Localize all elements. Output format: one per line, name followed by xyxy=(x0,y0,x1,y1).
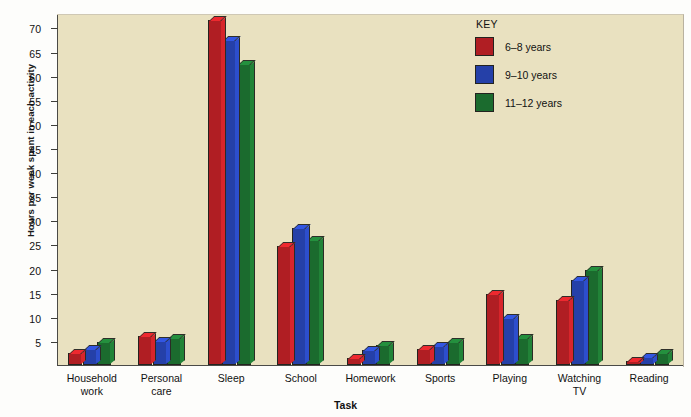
y-axis-tick: 40 xyxy=(51,173,58,174)
bar-side-face xyxy=(166,338,171,364)
bar-side-face xyxy=(598,267,603,364)
bar-side-face xyxy=(389,342,394,364)
bar-side-face xyxy=(584,277,589,364)
y-axis-tick: 50 xyxy=(51,125,58,126)
y-axis-tick: 35 xyxy=(51,197,58,198)
y-axis-tick-label: 55 xyxy=(29,96,41,108)
bar[interactable] xyxy=(347,358,361,365)
bar-side-face xyxy=(528,335,533,364)
bar-side-face xyxy=(569,297,574,364)
legend-item: 11–12 years xyxy=(475,93,562,112)
bar[interactable] xyxy=(277,246,291,365)
bar[interactable] xyxy=(68,353,82,365)
legend-title: KEY xyxy=(476,18,562,30)
bar-group xyxy=(138,14,181,365)
bar-side-face xyxy=(221,17,226,364)
legend-label: 9–10 years xyxy=(505,69,557,81)
y-axis-tick-label: 50 xyxy=(29,120,41,132)
bar-side-face xyxy=(319,237,324,364)
bar-group xyxy=(347,14,390,365)
y-axis-tick-label: 35 xyxy=(29,192,41,204)
bar-side-face xyxy=(180,335,185,364)
bar-side-face xyxy=(250,61,255,364)
bar-side-face xyxy=(235,37,240,364)
y-axis-tick-label: 30 xyxy=(29,216,41,228)
y-axis-tick: 5 xyxy=(51,342,58,343)
legend-label: 11–12 years xyxy=(505,97,562,109)
y-axis-tick-label: 65 xyxy=(29,48,41,60)
bar-group xyxy=(68,14,111,365)
bar[interactable] xyxy=(417,349,431,365)
plot-area: 510152025303540455055606570 xyxy=(57,14,684,366)
y-axis-tick: 25 xyxy=(51,245,58,246)
bar-group xyxy=(626,14,669,365)
bar-side-face xyxy=(514,315,519,364)
y-axis-tick-label: 5 xyxy=(35,337,41,349)
bar-side-face xyxy=(151,333,156,364)
y-axis-tick-label: 15 xyxy=(29,289,41,301)
legend: KEY 6–8 years 9–10 years 11–12 years xyxy=(475,18,562,121)
y-axis-tick-label: 20 xyxy=(29,265,41,277)
y-axis-tick-label: 70 xyxy=(29,23,41,35)
x-axis-category-label: Reading xyxy=(602,372,691,385)
legend-swatch-green xyxy=(475,93,494,112)
bar[interactable] xyxy=(208,20,222,365)
legend-item: 6–8 years xyxy=(475,37,562,56)
x-axis-title: Task xyxy=(0,399,691,411)
legend-swatch-red xyxy=(475,37,494,56)
bar-group xyxy=(208,14,251,365)
y-axis-tick: 20 xyxy=(51,270,58,271)
bar[interactable] xyxy=(556,300,570,365)
y-axis-tick: 60 xyxy=(51,77,58,78)
y-axis-tick-label: 10 xyxy=(29,313,41,325)
y-axis-tick-label: 25 xyxy=(29,240,41,252)
bar[interactable] xyxy=(626,361,640,365)
legend-item: 9–10 years xyxy=(475,65,562,84)
bar-group xyxy=(417,14,460,365)
bar[interactable] xyxy=(486,294,500,365)
bar-group xyxy=(556,14,599,365)
y-axis-tick: 65 xyxy=(51,53,58,54)
bar-group xyxy=(277,14,320,365)
bar-side-face xyxy=(459,339,464,364)
bar-side-face xyxy=(110,339,115,364)
chart-container: Hours per week spent in each activity 51… xyxy=(0,0,691,417)
y-axis-tick: 15 xyxy=(51,294,58,295)
y-axis-tick-label: 45 xyxy=(29,144,41,156)
y-axis-tick: 45 xyxy=(51,149,58,150)
bar-side-face xyxy=(305,225,310,364)
y-axis-tick-label: 40 xyxy=(29,168,41,180)
y-axis-tick-label: 60 xyxy=(29,72,41,84)
bar-side-face xyxy=(290,243,295,364)
bar-side-face xyxy=(499,291,504,364)
y-axis-tick: 30 xyxy=(51,221,58,222)
bar[interactable] xyxy=(138,336,152,365)
legend-swatch-blue xyxy=(475,65,494,84)
legend-label: 6–8 years xyxy=(505,41,551,53)
y-axis-tick: 55 xyxy=(51,101,58,102)
y-axis-tick: 70 xyxy=(51,28,58,29)
y-axis-tick: 10 xyxy=(51,318,58,319)
